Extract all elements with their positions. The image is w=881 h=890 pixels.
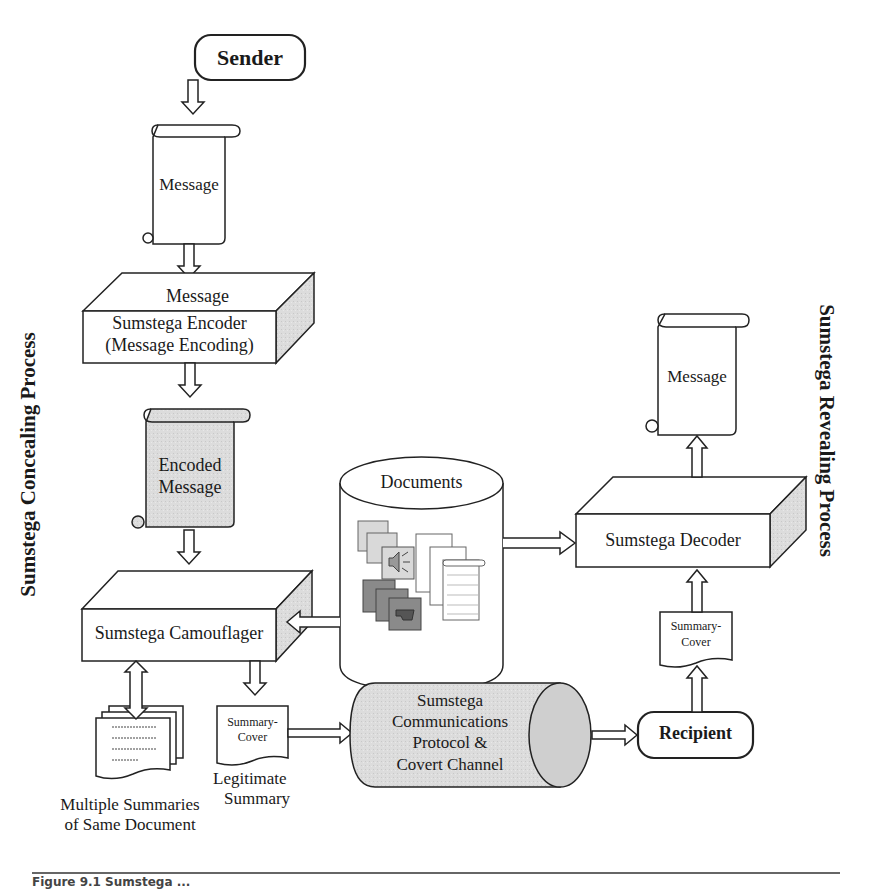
encoded-message-label-2: Message (146, 477, 234, 498)
arrow-up-icon (687, 666, 707, 712)
documents-label: Documents (340, 472, 503, 493)
encoded-message-label-1: Encoded (146, 455, 234, 476)
channel-label-4: Covert Channel (370, 755, 530, 775)
channel-label-2: Communications (370, 712, 530, 732)
arrow-right-icon (503, 532, 575, 554)
multiple-summaries-label-2: of Same Document (40, 815, 220, 835)
decoder-label: Sumstega Decoder (576, 530, 770, 551)
arrow-down-icon (179, 363, 201, 397)
multiple-summaries-label-1: Multiple Summaries (40, 795, 220, 815)
recipient-label: Recipient (638, 723, 753, 744)
arrow-up-icon (687, 570, 707, 612)
figure-caption: Figure 9.1 Sumstega ... (32, 876, 190, 890)
revealing-process-label: Sumstega Revealing Process (814, 301, 839, 561)
camouflager-box (82, 571, 312, 661)
arrow-right-icon (288, 723, 352, 743)
summary-cover-left-label-1: Summary- (217, 716, 288, 730)
summary-cover-right-label-2: Cover (660, 636, 732, 650)
legitimate-summary-label-2: Summary (224, 789, 304, 809)
summary-cover-left-label-2: Cover (217, 731, 288, 745)
arrow-left-icon (287, 611, 340, 633)
arrow-up-icon (687, 436, 707, 477)
message-right-label: Message (658, 367, 736, 387)
encoder-label: Sumstega Encoder (83, 313, 276, 334)
encoder-top-label: Message (120, 286, 275, 307)
decoder-box (576, 477, 806, 567)
encoder-sublabel: (Message Encoding) (83, 335, 276, 356)
legitimate-summary-label-1: Legitimate (213, 769, 303, 789)
multiple-summaries-stack (96, 706, 183, 779)
arrow-down-icon (178, 530, 200, 564)
sender-label: Sender (195, 45, 305, 70)
channel-label-3: Protocol & (370, 733, 530, 753)
camouflager-label: Sumstega Camouflager (82, 623, 276, 644)
channel-label-1: Sumstega (370, 691, 530, 711)
bidirectional-arrow-icon (125, 661, 147, 719)
concealing-process-label: Sumstega Concealing Process (16, 325, 41, 605)
summary-cover-right-label-1: Summary- (660, 620, 732, 634)
message-top-label: Message (153, 175, 225, 195)
arrow-down-icon (244, 661, 266, 695)
arrow-down-icon (182, 80, 204, 114)
arrow-right-icon (592, 725, 637, 745)
